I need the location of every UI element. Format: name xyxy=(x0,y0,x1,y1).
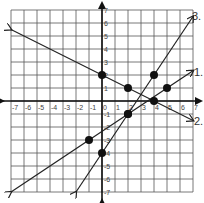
svg-text:4: 4 xyxy=(104,46,108,53)
axes xyxy=(3,3,201,200)
svg-text:-7: -7 xyxy=(104,189,110,196)
svg-text:-4: -4 xyxy=(51,104,57,111)
svg-text:5: 5 xyxy=(104,33,108,40)
plotted-point xyxy=(124,84,132,92)
svg-text:7: 7 xyxy=(104,7,108,14)
line-1-label: 1. xyxy=(194,66,203,78)
svg-text:-6: -6 xyxy=(104,176,110,183)
svg-text:3: 3 xyxy=(104,59,108,66)
plotted-point xyxy=(85,136,93,144)
plotted-point xyxy=(150,71,158,79)
svg-text:-3: -3 xyxy=(64,104,70,111)
svg-text:6: 6 xyxy=(104,20,108,27)
line-2-label: 2. xyxy=(194,115,203,127)
plotted-point xyxy=(150,97,158,105)
svg-text:-6: -6 xyxy=(25,104,31,111)
svg-text:-5: -5 xyxy=(38,104,44,111)
svg-text:-5: -5 xyxy=(104,163,110,170)
svg-text:1: 1 xyxy=(104,85,108,92)
svg-text:6: 6 xyxy=(181,104,185,111)
plotted-point xyxy=(98,149,106,157)
svg-text:-7: -7 xyxy=(12,104,18,111)
svg-text:4: 4 xyxy=(155,104,159,111)
coordinate-plane: -7-6-5-4-3-2-1012345677654321-1-2-3-4-5-… xyxy=(0,0,204,203)
svg-text:-2: -2 xyxy=(77,104,83,111)
svg-text:3: 3 xyxy=(142,104,146,111)
svg-text:-1: -1 xyxy=(104,111,110,118)
svg-text:7: 7 xyxy=(194,104,198,111)
plotted-point xyxy=(124,110,132,118)
plotted-point xyxy=(98,71,106,79)
svg-text:-1: -1 xyxy=(90,104,96,111)
svg-text:1: 1 xyxy=(116,104,120,111)
svg-text:0: 0 xyxy=(103,104,107,111)
line-3-label: 3. xyxy=(192,10,201,22)
plotted-point xyxy=(163,84,171,92)
